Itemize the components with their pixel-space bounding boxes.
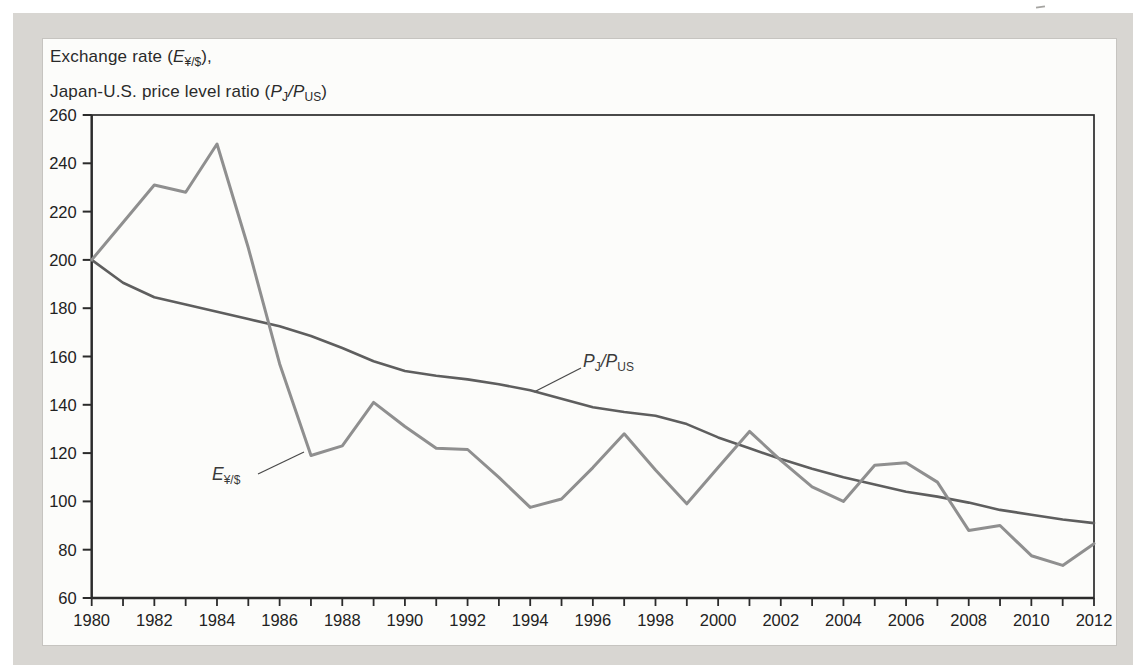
- x-tick-label: 2006: [888, 611, 925, 629]
- price-ratio-label: PJ/PUS: [583, 351, 634, 374]
- y-tick-label: 60: [58, 589, 76, 607]
- x-tick-label: 1980: [73, 611, 110, 629]
- y-tick-label: 220: [49, 203, 77, 221]
- figure-page: Exchange rate (E¥/$), Japan-U.S. price l…: [0, 0, 1143, 665]
- y-tick-label: 140: [49, 396, 77, 414]
- x-tick-label: 1988: [324, 611, 361, 629]
- y-tick-label: 100: [49, 492, 77, 510]
- x-tick-label: 1992: [449, 611, 486, 629]
- y-tick-label: 200: [49, 251, 77, 269]
- x-tick-label: 2000: [700, 611, 737, 629]
- x-tick-label: 2012: [1076, 611, 1113, 629]
- x-tick-label: 1996: [574, 611, 611, 629]
- y-tick-label: 180: [49, 299, 77, 317]
- y-tick-label: 260: [49, 106, 77, 124]
- x-tick-label: 1986: [261, 611, 298, 629]
- price-ratio-leader-line: [534, 368, 581, 392]
- x-tick-label: 2008: [950, 611, 987, 629]
- exchange-rate-leader-line: [258, 452, 304, 474]
- x-tick-label: 2010: [1013, 611, 1050, 629]
- price-ratio-line: [92, 260, 1094, 523]
- x-tick-label: 2002: [762, 611, 799, 629]
- x-tick-label: 1994: [512, 611, 549, 629]
- y-tick-label: 160: [49, 348, 77, 366]
- y-tick-label: 240: [49, 154, 77, 172]
- x-tick-label: 1990: [387, 611, 424, 629]
- y-tick-label: 120: [49, 444, 77, 462]
- x-tick-label: 1998: [637, 611, 674, 629]
- x-tick-label: 1984: [199, 611, 236, 629]
- exchange-rate-label: E¥/$: [212, 464, 240, 487]
- x-tick-label: 1982: [136, 611, 173, 629]
- line-chart: 6080100120140160180200220240260198019821…: [0, 0, 1143, 665]
- x-tick-label: 2004: [825, 611, 862, 629]
- y-tick-label: 80: [58, 541, 76, 559]
